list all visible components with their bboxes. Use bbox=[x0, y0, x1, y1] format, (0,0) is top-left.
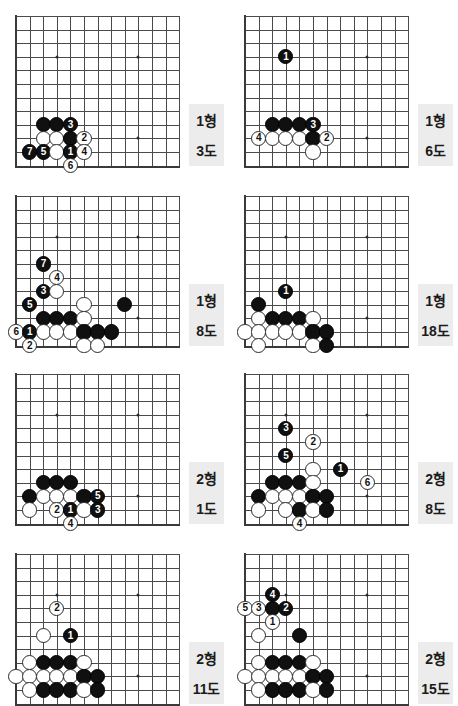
board-edge-bottom bbox=[15, 704, 180, 706]
move-number: 3 bbox=[68, 120, 73, 130]
grid-line-horizontal bbox=[16, 84, 179, 85]
star-point bbox=[284, 593, 287, 596]
white-stone bbox=[251, 628, 266, 643]
grid-line-vertical bbox=[125, 374, 126, 524]
board-edge-left bbox=[244, 373, 246, 525]
grid-line-horizontal bbox=[16, 210, 179, 211]
grid-line-vertical bbox=[166, 554, 167, 704]
grid-line-vertical bbox=[367, 374, 368, 524]
black-stone bbox=[319, 682, 334, 697]
board-edge-left bbox=[15, 15, 17, 167]
go-board: 325164 bbox=[245, 374, 408, 524]
grid-line-horizontal bbox=[16, 554, 179, 555]
grid-line-vertical bbox=[395, 554, 396, 704]
grid-line-vertical bbox=[367, 554, 368, 704]
move-number: 2 bbox=[283, 603, 288, 613]
numbered-move-stone: 2 bbox=[49, 601, 64, 616]
figure-label: 8도 bbox=[196, 320, 217, 340]
go-board: 52134 bbox=[16, 374, 179, 524]
move-number: 3 bbox=[256, 603, 261, 613]
star-point bbox=[366, 593, 369, 596]
black-stone bbox=[117, 297, 132, 312]
grid-line-horizontal bbox=[16, 98, 179, 99]
grid-line-vertical bbox=[395, 16, 396, 166]
star-point bbox=[137, 675, 140, 678]
go-board: 3275146 bbox=[16, 16, 179, 166]
numbered-move-stone: 5 bbox=[22, 297, 37, 312]
move-number: 3 bbox=[41, 286, 46, 296]
numbered-move-stone: 1 bbox=[333, 462, 348, 477]
grid-line-vertical bbox=[138, 196, 139, 346]
white-stone bbox=[49, 284, 64, 299]
grid-line-horizontal bbox=[16, 388, 179, 389]
numbered-move-stone: 2 bbox=[319, 131, 334, 146]
grid-line-vertical bbox=[166, 16, 167, 166]
star-point bbox=[137, 317, 140, 320]
grid-line-horizontal bbox=[245, 98, 408, 99]
move-number: 4 bbox=[297, 519, 302, 529]
go-diagram-panel: 13421형6도 bbox=[229, 0, 458, 180]
grid-line-vertical bbox=[408, 374, 409, 524]
star-point bbox=[366, 55, 369, 58]
move-number: 4 bbox=[54, 273, 59, 283]
grid-line-vertical bbox=[179, 196, 180, 346]
grid-line-vertical bbox=[340, 554, 341, 704]
grid-line-horizontal bbox=[245, 196, 408, 197]
grid-line-horizontal bbox=[245, 442, 408, 443]
grid-line-horizontal bbox=[16, 428, 179, 429]
grid-line-horizontal bbox=[245, 84, 408, 85]
grid-line-vertical bbox=[354, 196, 355, 346]
grid-line-horizontal bbox=[245, 210, 408, 211]
grid-line-vertical bbox=[381, 374, 382, 524]
move-number: 1 bbox=[283, 286, 288, 296]
star-point bbox=[284, 413, 287, 416]
grid-line-vertical bbox=[30, 196, 31, 346]
move-number: 6 bbox=[365, 478, 370, 488]
grid-line-vertical bbox=[395, 196, 396, 346]
numbered-move-stone: 6 bbox=[63, 158, 78, 173]
move-number: 5 bbox=[283, 451, 288, 461]
grid-line-vertical bbox=[138, 374, 139, 524]
grid-line-horizontal bbox=[16, 223, 179, 224]
figure-label: 8도 bbox=[425, 498, 446, 518]
numbered-move-stone: 4 bbox=[251, 131, 266, 146]
numbered-move-stone: 2 bbox=[22, 338, 37, 353]
figure-label: 15도 bbox=[421, 678, 450, 698]
grid-line-horizontal bbox=[245, 415, 408, 416]
numbered-move-stone: 2 bbox=[305, 434, 320, 449]
grid-line-vertical bbox=[354, 554, 355, 704]
grid-line-horizontal bbox=[245, 636, 408, 637]
grid-line-horizontal bbox=[16, 16, 179, 17]
grid-line-horizontal bbox=[245, 57, 408, 58]
grid-line-horizontal bbox=[16, 595, 179, 596]
move-number: 2 bbox=[310, 437, 315, 447]
grid-line-vertical bbox=[166, 374, 167, 524]
numbered-move-stone: 7 bbox=[22, 144, 37, 159]
numbered-move-stone: 3 bbox=[90, 502, 105, 517]
grid-line-horizontal bbox=[245, 237, 408, 238]
grid-line-horizontal bbox=[245, 568, 408, 569]
black-stone bbox=[319, 502, 334, 517]
move-number: 2 bbox=[54, 505, 59, 515]
go-diagram-panel: 11형18도 bbox=[229, 180, 458, 360]
grid-line-vertical bbox=[327, 196, 328, 346]
white-stone bbox=[251, 502, 266, 517]
grid-line-horizontal bbox=[16, 469, 179, 470]
problem-label: 2형 bbox=[425, 468, 446, 488]
grid-line-vertical bbox=[125, 16, 126, 166]
black-stone bbox=[319, 338, 334, 353]
star-point bbox=[366, 675, 369, 678]
grid-line-vertical bbox=[138, 554, 139, 704]
move-number: 6 bbox=[68, 161, 73, 171]
white-stone bbox=[22, 502, 37, 517]
grid-line-vertical bbox=[98, 196, 99, 346]
grid-line-horizontal bbox=[245, 250, 408, 251]
star-point bbox=[366, 413, 369, 416]
black-stone bbox=[90, 682, 105, 697]
grid-line-horizontal bbox=[245, 649, 408, 650]
board-edge-bottom bbox=[244, 524, 409, 526]
go-board: 45321 bbox=[245, 554, 408, 704]
grid-line-horizontal bbox=[245, 305, 408, 306]
grid-line-horizontal bbox=[16, 196, 179, 197]
grid-line-vertical bbox=[152, 16, 153, 166]
